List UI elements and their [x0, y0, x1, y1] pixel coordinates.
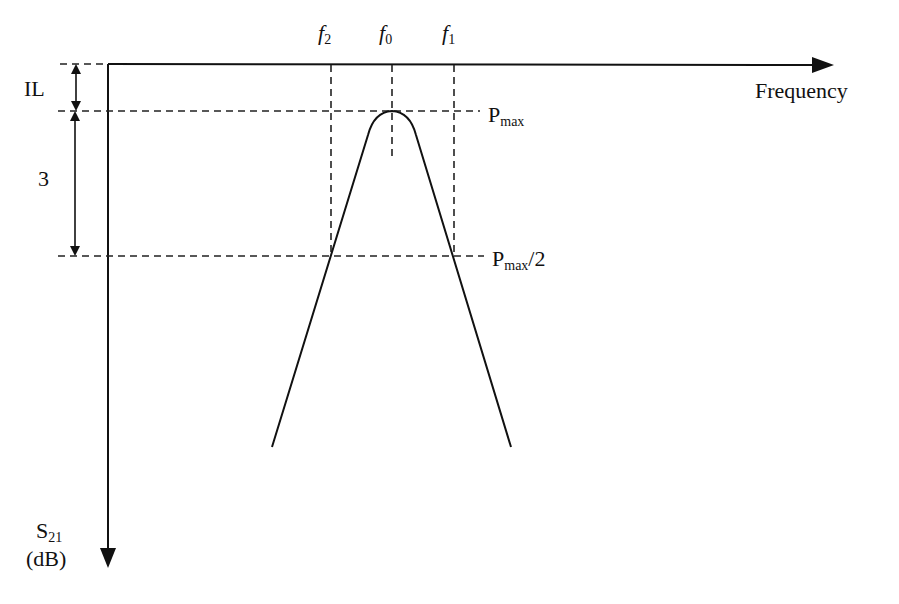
il-label: IL [24, 78, 45, 100]
three-db-arrow-up-icon [70, 111, 80, 121]
y-axis-arrow-icon [100, 548, 116, 568]
three-db-label: 3 [38, 168, 49, 190]
il-arrow-up-icon [71, 64, 81, 74]
f0-label: f0 [379, 22, 392, 47]
y-axis-label: S21 [36, 520, 62, 545]
s21-response-curve [272, 111, 511, 447]
x-axis-label: Frequency [755, 80, 848, 102]
f2-label: f2 [318, 22, 331, 47]
x-axis [108, 64, 812, 65]
il-arrow-down-icon [71, 101, 81, 111]
three-db-arrow-down-icon [70, 246, 80, 256]
pmax-label: Pmax [488, 104, 524, 129]
f1-label: f1 [442, 22, 455, 47]
pmax-half-label: Pmax/2 [492, 248, 545, 273]
y-axis-unit-label: (dB) [26, 548, 66, 570]
x-axis-arrow-icon [812, 57, 834, 73]
